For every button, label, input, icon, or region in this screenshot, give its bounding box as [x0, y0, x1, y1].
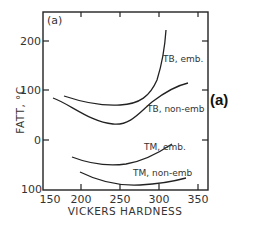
y-tick-label: 0 [34, 134, 41, 147]
panel-label-outside: (a) [210, 91, 228, 108]
panel-label-inside: (a) [47, 14, 62, 27]
y-tick-label: 200 [20, 35, 41, 48]
fatt-vs-hardness-chart: 200 100 0 100 150 200 250 300 350 VICKER… [0, 0, 258, 244]
curve-label-tb-nonemb: TB, non-emb [146, 104, 205, 114]
curve-label-tb-emb: TB, emb. [162, 54, 203, 64]
y-axis-title: FATT, °C [14, 86, 26, 133]
x-tick-label: 350 [188, 193, 209, 206]
curve-label-tm-nonemb: TM, non-emb [132, 168, 192, 178]
curve-label-tm-emb: TM, emb. [143, 142, 186, 152]
x-tick-label: 150 [40, 193, 61, 206]
plot-frame [43, 12, 208, 190]
curve-tb-emb [64, 30, 166, 105]
x-axis-title: VICKERS HARDNESS [68, 205, 183, 217]
